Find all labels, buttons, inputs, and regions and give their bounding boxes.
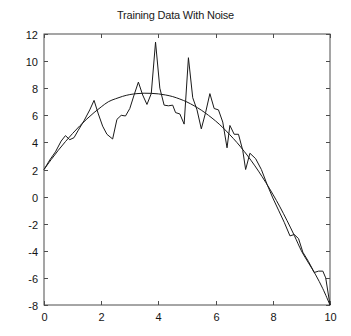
plot-area: -8-6-4-20246810120246810 [0, 0, 351, 336]
y-tick-label: -4 [28, 246, 38, 258]
figure-container: Training Data With Noise -8-6-4-20246810… [0, 0, 351, 336]
y-tick-label: 2 [32, 165, 38, 177]
x-tick-label: 10 [324, 311, 336, 323]
x-tick-label: 4 [155, 311, 161, 323]
x-tick-label: 8 [270, 311, 276, 323]
x-tick-label: 0 [41, 311, 47, 323]
y-tick-label: 8 [32, 83, 38, 95]
y-tick-label: -2 [28, 219, 38, 231]
y-tick-label: 10 [26, 56, 38, 68]
x-tick-label: 6 [213, 311, 219, 323]
y-tick-label: -8 [28, 300, 38, 312]
y-tick-label: -6 [28, 273, 38, 285]
x-tick-label: 2 [98, 311, 104, 323]
y-tick-label: 12 [26, 29, 38, 41]
y-tick-label: 0 [32, 192, 38, 204]
y-tick-label: 6 [32, 110, 38, 122]
y-tick-label: 4 [32, 137, 38, 149]
